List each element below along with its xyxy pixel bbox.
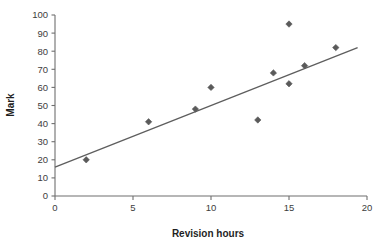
y-tick-label: 80 [37,46,48,57]
x-tick-label: 15 [284,202,295,213]
data-point-marker [286,81,292,87]
y-tick-label: 60 [37,82,48,93]
data-point-marker [270,70,276,76]
best-fit-line [55,48,358,167]
y-tick-label: 0 [43,190,48,201]
x-tick-label: 5 [130,202,135,213]
y-tick-label: 70 [37,64,48,75]
data-point-marker [208,84,214,90]
trend-line [55,48,358,167]
y-tick-label: 30 [37,136,48,147]
y-tick-label: 100 [32,9,48,20]
y-tick-label: 40 [37,118,48,129]
y-axis: 0102030405060708090100 [32,9,55,201]
y-tick-label: 10 [37,172,48,183]
x-tick-label: 20 [362,202,373,213]
x-axis: 05101520 [52,196,372,213]
data-point-marker [145,119,151,125]
data-points [83,21,339,163]
y-tick-label: 90 [37,28,48,39]
data-point-marker [286,21,292,27]
y-tick-label: 20 [37,154,48,165]
x-tick-label: 0 [52,202,57,213]
scatter-chart: 0102030405060708090100 05101520 Revision… [0,0,389,248]
x-axis-title: Revision hours [172,228,245,239]
data-point-marker [255,117,261,123]
x-tick-label: 10 [206,202,217,213]
y-axis-title: Mark [5,93,16,117]
data-point-marker [83,157,89,163]
data-point-marker [333,44,339,50]
chart-canvas: 0102030405060708090100 05101520 Revision… [0,0,389,248]
y-tick-label: 50 [37,100,48,111]
